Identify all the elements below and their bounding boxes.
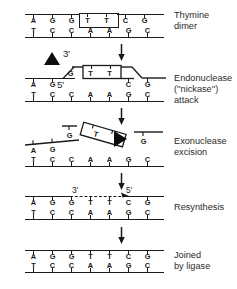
base-top: A xyxy=(29,253,38,260)
svg-text:T: T xyxy=(93,129,100,139)
base-top: C xyxy=(124,199,133,206)
top-strand-line-right xyxy=(124,196,164,197)
label-ligase-line2: by ligase xyxy=(174,261,210,271)
bottom-strand-line xyxy=(25,101,164,102)
base-top: G xyxy=(48,146,57,153)
base-top: T xyxy=(105,199,114,206)
base-top: G xyxy=(143,199,152,206)
base-top-nick-g: G xyxy=(66,70,75,77)
base-top: A xyxy=(29,147,38,154)
three-prime-label: 3' xyxy=(72,185,78,195)
base-top: A xyxy=(29,199,38,206)
base-top-dimer: T xyxy=(83,17,92,24)
base-top: G xyxy=(67,17,76,24)
five-prime-label: 5' xyxy=(57,79,64,90)
label-endonuclease-line3: attack xyxy=(174,95,199,105)
base-top: A xyxy=(29,81,38,88)
process-arrow-3 xyxy=(117,173,126,189)
new-strand-dashed-segment xyxy=(70,196,126,197)
base-top: G xyxy=(48,17,57,24)
base-top: C xyxy=(121,17,130,24)
base-top: C xyxy=(124,253,133,260)
base-top: T xyxy=(105,253,114,260)
base-top: G xyxy=(143,81,152,88)
base-top: G xyxy=(67,253,76,260)
process-arrow-4 xyxy=(117,227,126,243)
label-resynthesis: Resynthesis xyxy=(174,202,224,212)
base-top: T xyxy=(86,199,95,206)
label-exonuclease-line1: Exonuclease xyxy=(174,136,227,146)
dna-repair-diagram: A G G T T C G T C C A A G C Thymine dime… xyxy=(0,0,237,289)
label-ligase-line1: Joined xyxy=(174,250,201,260)
exonuclease-triangle-icon xyxy=(114,131,127,147)
bottom-strand-line xyxy=(25,219,164,220)
base-top: G xyxy=(143,253,152,260)
base-top: G xyxy=(140,17,149,24)
backbone-tick xyxy=(128,78,129,82)
base-top: A xyxy=(29,17,38,24)
base-top: C xyxy=(124,81,133,88)
bottom-strand-line xyxy=(25,37,164,38)
endonuclease-triangle-icon xyxy=(44,52,60,65)
label-endonuclease-line1: Endonuclease xyxy=(174,73,232,83)
base-top: G xyxy=(139,138,148,145)
label-exonuclease-line2: excision xyxy=(174,147,207,157)
base-top-free-g: G xyxy=(65,132,74,139)
bottom-strand-line xyxy=(25,272,164,273)
base-top-dimer: T xyxy=(86,70,95,77)
backbone-tick xyxy=(147,78,148,82)
label-thymine-dimer-line2: dimer xyxy=(174,21,197,31)
top-strand-line xyxy=(25,250,164,251)
base-top: G xyxy=(48,253,57,260)
base-top-dimer: T xyxy=(105,70,114,77)
base-top: G xyxy=(67,199,76,206)
label-thymine-dimer-line1: Thymine xyxy=(174,10,209,20)
top-strand-right-segment xyxy=(134,130,164,138)
label-endonuclease-line2: (''nickase'') xyxy=(174,84,218,94)
base-top: G xyxy=(48,199,57,206)
base-top-dimer: T xyxy=(102,17,111,24)
base-top: T xyxy=(86,253,95,260)
bottom-strand-line xyxy=(25,166,164,167)
base-top: G xyxy=(48,81,57,88)
